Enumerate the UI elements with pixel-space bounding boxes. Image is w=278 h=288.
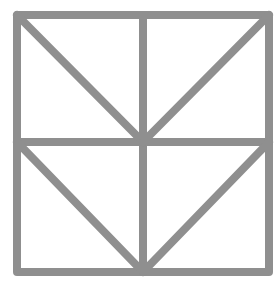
top-left-diagonal [17, 15, 143, 142]
bottom-left-diagonal [17, 142, 143, 272]
geometric-figure [0, 0, 278, 288]
bottom-right-diagonal [143, 142, 269, 272]
top-right-diagonal [143, 15, 269, 142]
